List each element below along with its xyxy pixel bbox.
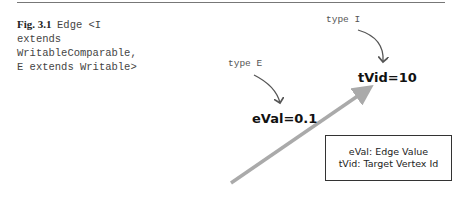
legend-line-1: eVal: Edge Value (326, 146, 451, 158)
edge-value: eVal=0.1 (252, 111, 317, 126)
legend-box: eVal: Edge Value tVid: Target Vertex Id (325, 135, 452, 181)
type-i-arrow-icon (358, 30, 383, 62)
type-e-label: type E (228, 58, 262, 69)
type-e-arrow-icon (254, 75, 280, 103)
legend-line-2: tVid: Target Vertex Id (326, 158, 451, 170)
type-i-label: type I (326, 14, 360, 25)
target-vertex-value: tVid=10 (358, 70, 417, 85)
